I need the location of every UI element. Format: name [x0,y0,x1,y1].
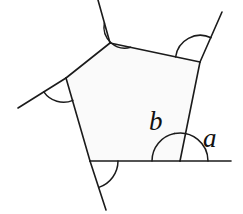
angle-label-a: a [203,125,217,152]
arc-bottom-left-exterior-angle [99,161,118,187]
pentagon-diagram-svg [0,0,243,214]
arc-left-exterior-angle [44,92,73,102]
ray-top [98,0,110,43]
angle-label-b: b [149,108,163,135]
pentagon-interior-fill [66,43,200,161]
arc-upper-right-exterior-angle [176,35,212,57]
ray-left [18,78,66,108]
geometry-figure: b a [0,0,243,214]
